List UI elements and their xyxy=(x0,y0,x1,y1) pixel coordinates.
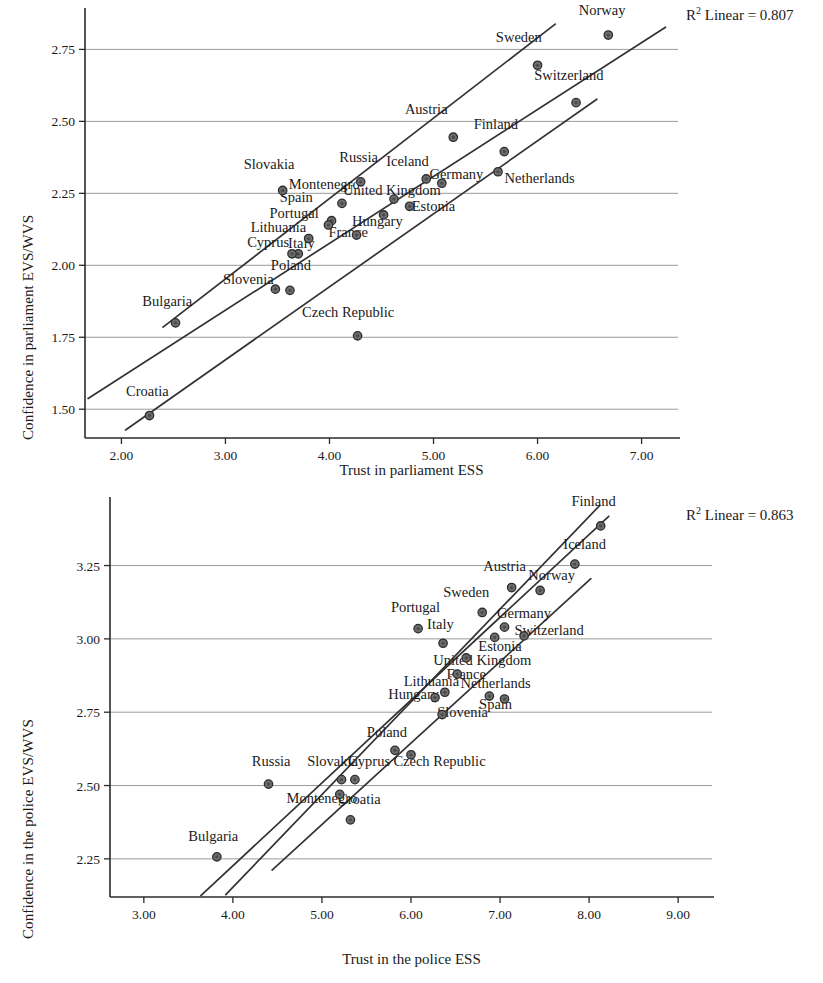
point-label-slovakia: Slovakia xyxy=(244,156,295,172)
point-label-netherlands: Netherlands xyxy=(505,170,575,186)
marker-inner xyxy=(148,414,151,417)
data-point-finland xyxy=(596,522,604,530)
x-tick-label-7.00: 7.00 xyxy=(488,907,512,922)
y-tick-label-3.25: 3.25 xyxy=(76,559,100,574)
y-axis-label-police: Confidence in the police EVS/WVS xyxy=(20,719,37,939)
data-point-sweden xyxy=(478,608,486,616)
point-label-finland: Finland xyxy=(571,493,616,509)
point-label-iceland: Iceland xyxy=(386,153,429,169)
data-point-austria xyxy=(507,583,515,591)
marker-inner xyxy=(573,562,576,565)
data-point-montenegro xyxy=(336,790,344,798)
data-point-united-kingdom xyxy=(390,195,398,203)
x-tick-label-6.00: 6.00 xyxy=(399,907,423,922)
marker-inner xyxy=(539,589,542,592)
marker-inner xyxy=(536,64,539,67)
data-point-sweden xyxy=(533,61,541,69)
marker-inner xyxy=(274,288,277,291)
chart-police: 2.252.502.753.003.253.004.005.006.007.00… xyxy=(0,491,823,983)
data-point-bulgaria xyxy=(213,853,221,861)
point-labels-group: FinlandIcelandAustriaNorwaySwedenGermany… xyxy=(188,493,616,844)
x-tick-label-3.00: 3.00 xyxy=(214,448,238,463)
marker-inner xyxy=(340,778,343,781)
x-tick-label-6.00: 6.00 xyxy=(526,448,550,463)
y-tick-label-2.50: 2.50 xyxy=(76,779,100,794)
chart-parliament: 1.501.752.002.252.502.752.003.004.005.00… xyxy=(0,0,823,492)
point-label-france: France xyxy=(328,224,367,240)
marker-inner xyxy=(493,636,496,639)
marker-inner xyxy=(452,136,455,139)
x-tick-label-3.00: 3.00 xyxy=(132,907,156,922)
data-point-norway xyxy=(604,31,612,39)
police-plot-canvas: 2.252.502.753.003.253.004.005.006.007.00… xyxy=(0,491,823,983)
data-point-germany xyxy=(438,179,446,187)
data-point-netherlands xyxy=(485,692,493,700)
marker-inner xyxy=(599,524,602,527)
data-point-finland xyxy=(500,147,508,155)
marker-inner xyxy=(382,213,385,216)
data-point-poland xyxy=(286,286,294,294)
data-point-russia xyxy=(264,780,272,788)
marker-inner xyxy=(433,696,436,699)
x-tick-label-5.00: 5.00 xyxy=(310,907,334,922)
point-label-bulgaria: Bulgaria xyxy=(188,828,238,844)
x-axis-label-parliament: Trust in parliament ESS xyxy=(0,462,823,479)
x-axis-label-police: Trust in the police ESS xyxy=(0,951,823,968)
y-tick-label-2.25: 2.25 xyxy=(76,852,100,867)
marker-inner xyxy=(456,672,459,675)
point-label-switzerland: Switzerland xyxy=(534,67,604,83)
point-label-netherlands: Netherlands xyxy=(461,675,531,691)
point-label-austria: Austria xyxy=(483,558,526,574)
r2-base: R xyxy=(686,7,696,23)
data-point-iceland xyxy=(571,560,579,568)
marker-inner xyxy=(174,321,177,324)
y-tick-label-1.75: 1.75 xyxy=(51,330,75,345)
data-point-france xyxy=(352,231,360,239)
point-label-russia: Russia xyxy=(252,753,291,769)
marker-inner xyxy=(327,223,330,226)
point-label-portugal: Portugal xyxy=(391,599,440,615)
axes-group: 2.252.502.753.003.253.004.005.006.007.00… xyxy=(76,497,714,922)
data-point-spain xyxy=(500,695,508,703)
point-label-croatia: Croatia xyxy=(126,383,169,399)
marker-inner xyxy=(338,793,341,796)
data-point-united-kingdom xyxy=(462,654,470,662)
point-label-poland: Poland xyxy=(367,724,408,740)
marker-inner xyxy=(297,252,300,255)
marker-inner xyxy=(503,150,506,153)
point-label-poland: Poland xyxy=(271,257,312,273)
marker-inner xyxy=(408,205,411,208)
data-point-czech-republic xyxy=(353,332,361,340)
data-point-croatia xyxy=(145,411,153,419)
marker-inner xyxy=(349,818,352,821)
marker-inner xyxy=(393,749,396,752)
data-point-hungary xyxy=(431,693,439,701)
point-label-austria: Austria xyxy=(405,101,448,117)
marker-inner xyxy=(425,177,428,180)
data-point-croatia xyxy=(346,816,354,824)
x-tick-label-4.00: 4.00 xyxy=(221,907,245,922)
data-point-switzerland xyxy=(520,632,528,640)
data-point-montenegro xyxy=(338,199,346,207)
marker-inner xyxy=(267,782,270,785)
data-point-austria xyxy=(449,133,457,141)
marker-inner xyxy=(307,237,310,240)
y-tick-label-2.75: 2.75 xyxy=(76,705,100,720)
marker-inner xyxy=(503,697,506,700)
data-point-portugal xyxy=(324,221,332,229)
data-point-portugal xyxy=(414,624,422,632)
data-point-lithuania xyxy=(441,688,449,696)
point-label-italy: Italy xyxy=(427,616,454,632)
parliament-plot-canvas: 1.501.752.002.252.502.752.003.004.005.00… xyxy=(0,0,823,492)
data-point-czech-republic xyxy=(407,751,415,759)
marker-inner xyxy=(443,691,446,694)
point-label-sweden: Sweden xyxy=(443,584,490,600)
x-tick-label-4.00: 4.00 xyxy=(318,448,342,463)
data-point-cyprus xyxy=(288,250,296,258)
marker-inner xyxy=(417,627,420,630)
data-point-iceland xyxy=(422,175,430,183)
data-point-russia xyxy=(356,178,364,186)
marker-inner xyxy=(290,252,293,255)
point-label-norway: Norway xyxy=(528,567,575,583)
marker-inner xyxy=(353,778,356,781)
